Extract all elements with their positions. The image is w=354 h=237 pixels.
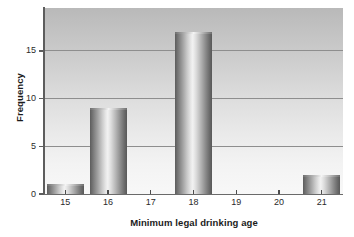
- y-tick-10: [39, 98, 44, 100]
- x-axis-title: Minimum legal drinking age: [44, 217, 344, 228]
- y-tick-15: [39, 50, 44, 52]
- x-tick-label-20: 20: [264, 198, 294, 207]
- plot-area: [44, 8, 343, 194]
- y-tick-0: [39, 193, 44, 195]
- x-tick-label-18: 18: [179, 198, 209, 207]
- y-tick-label-10: 10: [6, 94, 36, 103]
- x-tick-17: [150, 190, 151, 194]
- y-tick-label-15: 15: [6, 46, 36, 55]
- y-tick-label-0: 0: [6, 190, 36, 199]
- x-tick-label-16: 16: [93, 198, 123, 207]
- y-tick-label-5: 5: [6, 142, 36, 151]
- x-tick-20: [278, 190, 279, 194]
- x-tick-label-17: 17: [136, 198, 166, 207]
- bar-chart-figure: Frequency Minimum legal drinking age 051…: [0, 0, 354, 237]
- x-tick-15: [65, 190, 66, 194]
- x-tick-16: [107, 190, 108, 194]
- x-tick-label-15: 15: [50, 198, 80, 207]
- y-tick-5: [39, 146, 44, 148]
- bar-18: [175, 32, 212, 194]
- x-tick-21: [321, 190, 322, 194]
- x-tick-label-19: 19: [221, 198, 251, 207]
- x-tick-19: [236, 190, 237, 194]
- x-tick-label-21: 21: [307, 198, 337, 207]
- x-tick-18: [193, 190, 194, 194]
- y-axis-line: [43, 7, 45, 195]
- bar-16: [90, 108, 127, 194]
